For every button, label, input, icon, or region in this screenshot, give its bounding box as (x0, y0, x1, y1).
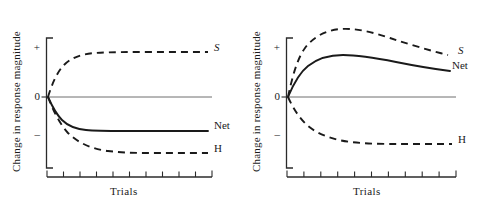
curve-net (48, 97, 208, 131)
curve-s (48, 52, 208, 97)
curve-label-net: Net (214, 119, 230, 131)
y-axis-bracket (287, 38, 294, 168)
right-panel: Change in response magnitude + 0 – Trial… (240, 0, 480, 208)
y-axis-title: Change in response magnitude (10, 31, 22, 172)
curve-label-h: H (458, 133, 466, 145)
y-tick-label-zero: 0 (266, 90, 280, 102)
curve-net (288, 55, 450, 97)
y-tick-label-minus: – (266, 128, 280, 140)
y-tick-label-plus: + (266, 41, 280, 53)
curve-label-h: H (214, 142, 222, 154)
curve-label-s: S (214, 41, 220, 53)
right-panel-plot (240, 0, 480, 208)
curve-label-net: Net (452, 59, 468, 71)
y-axis-title: Change in response magnitude (250, 31, 262, 172)
x-axis-title: Trials (110, 185, 138, 197)
curve-label-s: S (458, 44, 464, 56)
x-axis-ticks (47, 171, 212, 178)
left-panel: Change in response magnitude + 0 – Trial… (0, 0, 240, 208)
y-tick-label-minus: – (26, 128, 40, 140)
y-tick-label-zero: 0 (26, 90, 40, 102)
curve-h (48, 97, 208, 153)
curve-h (288, 97, 452, 144)
left-panel-plot (0, 0, 240, 208)
y-tick-label-plus: + (26, 41, 40, 53)
x-axis-title: Trials (353, 185, 381, 197)
x-axis-ticks (287, 171, 456, 178)
figure-two-panel-chart: Change in response magnitude + 0 – Trial… (0, 0, 480, 208)
